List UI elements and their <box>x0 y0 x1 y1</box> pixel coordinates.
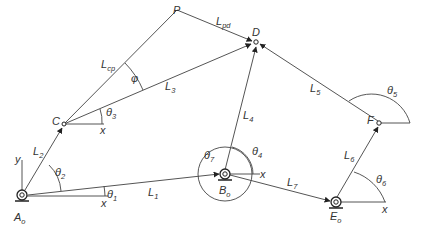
label-L2: L2 <box>33 145 44 160</box>
label-theta4: θ4 <box>252 145 262 160</box>
label-Lpd: Lpd <box>216 15 231 30</box>
label-C: C <box>52 115 60 127</box>
label-A0: Ao <box>13 211 26 226</box>
angle-labels: θ1 θ2 θ3 φ θ4 θ5 θ6 θ7 <box>55 72 398 203</box>
label-x-A0: x <box>100 197 107 209</box>
label-theta1: θ1 <box>107 188 117 203</box>
label-P: P <box>173 4 181 16</box>
joint-F <box>377 121 381 125</box>
label-theta2: θ2 <box>55 166 66 181</box>
label-theta5: θ5 <box>387 84 398 99</box>
ground-pivot-A0 <box>15 190 29 201</box>
joint-D <box>254 40 258 44</box>
linkage-diagram: Ao Bo Eo C P D F L1 L2 L3 L4 L5 L6 L7 Lc… <box>0 0 429 237</box>
label-y-A0: y <box>14 153 22 165</box>
label-E0: Eo <box>330 210 342 225</box>
arc-theta3 <box>100 109 102 124</box>
link-Lpd <box>177 10 252 41</box>
label-phi: φ <box>131 72 138 84</box>
label-F: F <box>367 114 375 126</box>
label-x-C: x <box>99 124 106 136</box>
label-B0: Bo <box>219 184 231 199</box>
label-theta7: θ7 <box>204 149 215 164</box>
link-Lcp <box>64 10 177 124</box>
link-labels: L1 L2 L3 L4 L5 L6 L7 Lcp Lpd <box>33 15 355 201</box>
link-L5 <box>260 44 378 121</box>
link-L7 <box>230 175 330 201</box>
link-L2 <box>25 128 62 190</box>
arc-theta4 <box>232 147 253 174</box>
links <box>25 10 378 201</box>
arc-theta1 <box>104 186 105 196</box>
label-L4: L4 <box>243 109 253 124</box>
joint-C <box>62 122 66 126</box>
label-theta6: θ6 <box>376 173 387 188</box>
link-L6 <box>337 127 378 197</box>
label-Lcp: Lcp <box>101 58 115 73</box>
label-L3: L3 <box>165 80 176 95</box>
label-theta3: θ3 <box>106 106 117 121</box>
ground-pivot-B0 <box>218 169 232 180</box>
point-labels: Ao Bo Eo C P D F <box>13 4 375 226</box>
link-L3 <box>64 44 251 124</box>
label-D: D <box>252 26 260 38</box>
label-x-B0: x <box>259 168 266 180</box>
label-x-E0: x <box>381 203 388 215</box>
label-L5: L5 <box>310 82 321 97</box>
label-L1: L1 <box>148 186 158 201</box>
ground-pivot-E0 <box>329 197 343 208</box>
label-L7: L7 <box>287 176 298 191</box>
label-L6: L6 <box>344 149 355 164</box>
